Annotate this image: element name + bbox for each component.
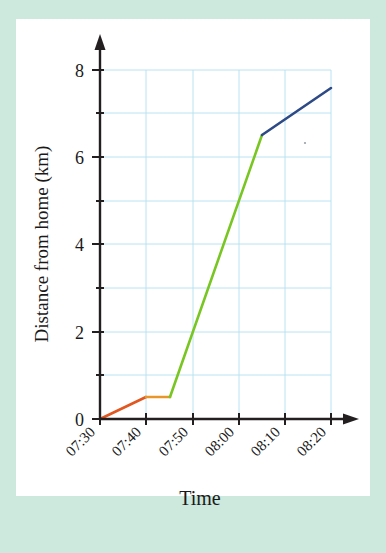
y-tick-label-6: 6 bbox=[75, 148, 84, 168]
x-tick-label-0810: 08:10 bbox=[248, 424, 283, 459]
series-final-walk bbox=[262, 88, 331, 135]
figure-background: 0 2 4 6 8 07:30 07:40 07:50 08:00 08:10 … bbox=[0, 0, 386, 553]
y-axis-ticks bbox=[92, 70, 104, 419]
x-axis-tick-labels: 07:30 07:40 07:50 08:00 08:10 08:20 bbox=[63, 424, 329, 459]
y-tick-label-2: 2 bbox=[75, 323, 84, 343]
series-walk-to-bus-stop bbox=[100, 397, 146, 419]
x-tick-label-0730: 07:30 bbox=[63, 424, 98, 459]
grid-lines-horizontal bbox=[100, 70, 331, 375]
x-tick-label-0750: 07:50 bbox=[156, 424, 191, 459]
y-axis-title: Distance from home (km) bbox=[31, 146, 53, 343]
print-speck bbox=[304, 142, 306, 144]
x-axis bbox=[100, 414, 359, 425]
x-tick-label-0820: 08:20 bbox=[294, 424, 329, 459]
y-axis-tick-labels: 0 2 4 6 8 bbox=[75, 61, 84, 430]
y-tick-label-4: 4 bbox=[75, 235, 84, 255]
y-axis bbox=[95, 34, 106, 419]
y-tick-label-8: 8 bbox=[75, 61, 84, 81]
x-tick-label-0800: 08:00 bbox=[202, 424, 237, 459]
distance-time-chart: 0 2 4 6 8 07:30 07:40 07:50 08:00 08:10 … bbox=[0, 0, 386, 553]
x-tick-label-0740: 07:40 bbox=[109, 424, 144, 459]
x-axis-title: Time bbox=[179, 487, 221, 509]
series-bus-journey bbox=[170, 135, 262, 397]
